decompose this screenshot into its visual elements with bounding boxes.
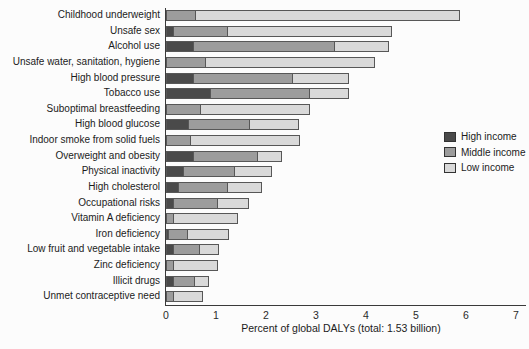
x-axis-title: Percent of global DALYs (total: 1.53 bil…	[166, 322, 516, 334]
x-tick-label: 1	[204, 309, 228, 321]
x-tick-label: 5	[404, 309, 428, 321]
bar-segment-low-income	[227, 26, 392, 37]
bar-row	[166, 151, 282, 162]
bar-segment-low-income	[309, 88, 349, 99]
bar-segment-middle-income	[183, 166, 236, 177]
legend: High incomeMiddle incomeLow income	[444, 129, 525, 176]
legend-label: Low income	[461, 162, 514, 173]
category-label: High blood pressure	[71, 72, 161, 84]
bar-segment-low-income	[173, 291, 203, 302]
legend-swatch	[444, 147, 456, 157]
bar-row	[166, 119, 299, 130]
x-tick-label: 0	[154, 309, 178, 321]
bar-segment-low-income	[334, 41, 389, 52]
bar-row	[166, 26, 392, 37]
category-label: Suboptimal breastfeeding	[47, 103, 160, 115]
bar-row	[166, 291, 203, 302]
bar-segment-low-income	[199, 244, 219, 255]
bar-segment-high-income	[166, 166, 184, 177]
bar-segment-low-income	[173, 213, 238, 224]
legend-label: High income	[461, 131, 517, 142]
bar-segment-low-income	[173, 260, 218, 271]
bar-segment-middle-income	[166, 104, 201, 115]
bar-segment-middle-income	[166, 57, 206, 68]
category-label: Iron deficiency	[96, 228, 160, 240]
category-label: Physical inactivity	[82, 165, 160, 177]
bar-segment-middle-income	[173, 26, 228, 37]
category-label: Alcohol use	[108, 40, 160, 52]
bar-segment-high-income	[166, 73, 194, 84]
bar-segment-middle-income	[173, 198, 218, 209]
bar-segment-low-income	[194, 276, 209, 287]
bar-row	[166, 10, 460, 21]
bar-row	[166, 57, 375, 68]
bar-segment-high-income	[166, 88, 211, 99]
legend-label: Middle income	[461, 147, 525, 158]
bar-row	[166, 260, 218, 271]
category-label: Zinc deficiency	[94, 259, 160, 271]
bar-row	[166, 88, 349, 99]
bar-row	[166, 244, 219, 255]
category-label: High blood glucose	[75, 118, 160, 130]
x-tick-label: 3	[304, 309, 328, 321]
legend-swatch	[444, 163, 456, 173]
bar-row	[166, 41, 389, 52]
x-tick-label: 2	[254, 309, 278, 321]
bar-segment-low-income	[257, 151, 282, 162]
x-tick-label: 4	[354, 309, 378, 321]
bar-segment-low-income	[234, 166, 272, 177]
bar-segment-middle-income	[166, 135, 191, 146]
bar-segment-middle-income	[173, 244, 201, 255]
category-label: Low fruit and vegetable intake	[27, 243, 160, 255]
bar-segment-middle-income	[173, 276, 196, 287]
bar-segment-middle-income	[193, 151, 258, 162]
bar-segment-middle-income	[193, 73, 293, 84]
bar-segment-high-income	[166, 119, 189, 130]
bar-row	[166, 73, 349, 84]
bar-segment-middle-income	[166, 10, 196, 21]
bar-segment-middle-income	[168, 229, 188, 240]
category-label: Vitamin A deficiency	[71, 212, 160, 224]
bar-segment-high-income	[166, 151, 194, 162]
x-tick-label: 6	[454, 309, 478, 321]
category-label: Unsafe water, sanitation, hygiene	[13, 56, 160, 68]
x-axis-line	[165, 305, 526, 306]
bar-segment-middle-income	[193, 41, 336, 52]
category-label: Unsafe sex	[110, 25, 160, 37]
bar-segment-low-income	[195, 10, 460, 21]
legend-item-high-income: High income	[444, 129, 525, 145]
legend-item-low-income: Low income	[444, 160, 525, 176]
category-label: Unmet contraceptive need	[43, 290, 160, 302]
category-label: Overweight and obesity	[55, 150, 160, 162]
bar-segment-middle-income	[178, 182, 228, 193]
bar-segment-middle-income	[210, 88, 310, 99]
category-label: Indoor smoke from solid fuels	[29, 134, 160, 146]
bar-row	[166, 182, 262, 193]
bar-segment-middle-income	[188, 119, 251, 130]
bar-segment-low-income	[190, 135, 300, 146]
legend-item-middle-income: Middle income	[444, 145, 525, 161]
bar-segment-low-income	[205, 57, 375, 68]
bar-segment-low-income	[217, 198, 250, 209]
category-label: Occupational risks	[78, 197, 160, 209]
bar-row	[166, 229, 229, 240]
category-label: Tobacco use	[104, 87, 160, 99]
bar-segment-low-income	[200, 104, 310, 115]
bar-row	[166, 135, 300, 146]
bar-row	[166, 198, 249, 209]
x-tick-label: 7	[504, 309, 528, 321]
category-label: Illicit drugs	[113, 275, 160, 287]
category-label: High cholesterol	[88, 181, 160, 193]
bar-segment-low-income	[227, 182, 262, 193]
bar-row	[166, 104, 310, 115]
bar-row	[166, 166, 272, 177]
category-label: Childhood underweight	[58, 9, 160, 21]
bar-row	[166, 213, 238, 224]
bar-segment-high-income	[166, 41, 194, 52]
chart-figure: Childhood underweightUnsafe sexAlcohol u…	[0, 0, 529, 349]
bar-segment-low-income	[292, 73, 350, 84]
legend-swatch	[444, 132, 456, 142]
bar-row	[166, 276, 209, 287]
bar-segment-low-income	[187, 229, 230, 240]
bar-segment-low-income	[249, 119, 299, 130]
